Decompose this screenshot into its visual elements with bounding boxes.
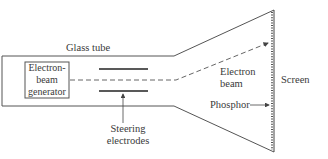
- electron-beam-label-1: Electron: [220, 66, 256, 78]
- generator-label-3: generator: [25, 86, 69, 98]
- glass-tube-label: Glass tube: [66, 42, 110, 54]
- phosphor-screen: [272, 10, 274, 152]
- phosphor-label: Phosphor: [210, 99, 250, 111]
- generator-label-1: Electron-: [25, 62, 69, 74]
- generator-label-2: beam: [25, 74, 69, 86]
- steering-label-2: electrodes: [98, 135, 158, 147]
- screen-label: Screen: [281, 74, 310, 86]
- electron-beam-label-2: beam: [220, 78, 243, 90]
- steering-label-1: Steering: [98, 123, 158, 135]
